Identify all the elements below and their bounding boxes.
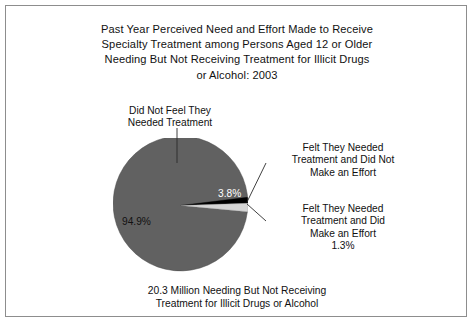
callout-line: Treatment and Did [268, 215, 418, 227]
callout-line: Did Not Feel They [104, 105, 236, 117]
chart-title-line: Past Year Perceived Need and Effort Made… [37, 22, 437, 37]
callout-made-effort: Felt They Needed Treatment and Did Make … [268, 203, 418, 252]
callout-line: Felt They Needed [268, 203, 418, 215]
callout-line: Needed Treatment [104, 117, 236, 129]
chart-caption-line: 20.3 Million Needing But Not Receiving [107, 284, 367, 297]
callout-did-not-feel-need: Did Not Feel They Needed Treatment [104, 105, 236, 130]
callout-value-label: 1.3% [268, 240, 418, 252]
callout-line: Make an Effort [268, 228, 418, 240]
callout-line: Treatment and Did Not [268, 154, 418, 166]
callout-no-effort: Felt They Needed Treatment and Did Not M… [268, 142, 418, 179]
chart-title-line: Specialty Treatment among Persons Aged 1… [37, 37, 437, 52]
callout-line: Felt They Needed [268, 142, 418, 154]
chart-caption: 20.3 Million Needing But Not Receiving T… [107, 284, 367, 310]
pie-value-label-major: 94.9% [122, 216, 151, 228]
chart-title-line: Needing But Not Receiving Treatment for … [37, 52, 437, 67]
chart-caption-line: Treatment for Illicit Drugs or Alcohol [107, 297, 367, 310]
chart-title-line: or Alcohol: 2003 [37, 68, 437, 83]
pie-graphic [113, 138, 248, 273]
chart-title: Past Year Perceived Need and Effort Made… [37, 22, 437, 83]
callout-line: Make an Effort [268, 167, 418, 179]
pie-chart-figure: Past Year Perceived Need and Effort Made… [0, 0, 474, 328]
pie-value-label-no-effort: 3.8% [218, 188, 241, 200]
pie-svg [113, 138, 248, 273]
